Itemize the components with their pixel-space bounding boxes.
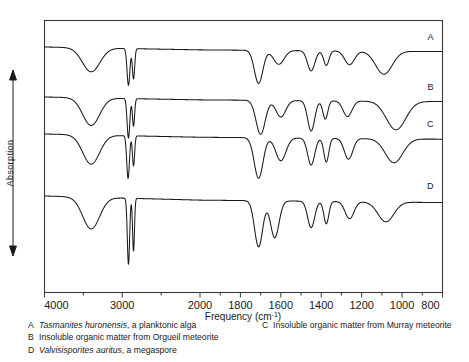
caption-text: Tasmanites huronensis, a planktonic alga	[39, 320, 258, 331]
x-tick-label: 1600	[269, 299, 293, 311]
caption-species-name: Valvisisporites auritus	[39, 345, 122, 355]
ir-spectra-figure: 40003000200018001600140012001000800 ABCD…	[0, 0, 469, 362]
spectrum-trace-c	[45, 134, 443, 178]
plot-frame	[45, 21, 443, 293]
caption-key: A	[28, 320, 39, 331]
caption-text: Insoluble organic matter from Orgueil me…	[39, 332, 258, 343]
x-tick-label: 1000	[390, 299, 414, 311]
x-tick-label: 1400	[309, 299, 333, 311]
caption-entry: ATasmanites huronensis, a planktonic alg…	[28, 320, 258, 331]
caption-right-column: CInsoluble organic matter from Murray me…	[262, 320, 462, 332]
caption-entry: CInsoluble organic matter from Murray me…	[262, 320, 462, 331]
spectra-traces	[45, 47, 443, 264]
caption-entry: DValvisisporites auritus, a megaspore	[28, 345, 258, 356]
caption-key: B	[28, 332, 39, 343]
caption-key: C	[262, 320, 273, 331]
x-tick-label: 1800	[228, 299, 252, 311]
caption-key: D	[28, 345, 39, 356]
x-tick-label: 3000	[110, 299, 134, 311]
trace-label-a: A	[427, 32, 433, 42]
x-tick-label: 2000	[188, 299, 212, 311]
caption-text: Valvisisporites auritus, a megaspore	[39, 345, 258, 356]
x-axis-tick-labels: 40003000200018001600140012001000800	[44, 299, 439, 311]
caption-entry: BInsoluble organic matter from Orgueil m…	[28, 332, 258, 343]
trace-label-c: C	[427, 119, 434, 129]
trace-letter-labels: ABCD	[427, 32, 434, 191]
x-tick-label: 800	[421, 299, 439, 311]
caption-species-name: Tasmanites huronensis	[39, 320, 127, 330]
y-axis-label: Absorption	[5, 139, 15, 186]
spectrum-trace-a	[45, 47, 443, 85]
caption-text: Insoluble organic matter from Murray met…	[273, 320, 462, 331]
caption-left-column: ATasmanites huronensis, a planktonic alg…	[28, 320, 258, 357]
trace-label-b: B	[427, 82, 433, 92]
x-tick-label: 4000	[44, 299, 68, 311]
x-axis-ticks	[45, 293, 443, 298]
spectrum-trace-b	[45, 97, 443, 138]
trace-label-d: D	[427, 181, 434, 191]
spectrum-trace-d	[45, 196, 443, 264]
x-tick-label: 1200	[349, 299, 373, 311]
